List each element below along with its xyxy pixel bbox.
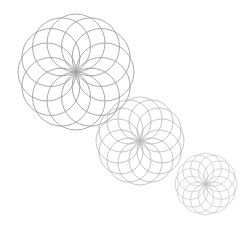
rosette-medium: [96, 97, 184, 185]
rosette-small: [175, 153, 237, 215]
rosette-large: [18, 14, 134, 130]
rosette-canvas: [0, 0, 242, 233]
